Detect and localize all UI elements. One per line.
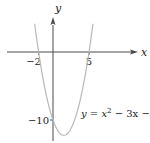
- x-axis-label: x: [141, 46, 148, 59]
- y-axis-label: y: [54, 2, 62, 15]
- parabola-graph: x y −25 −10 y = x2 − 3x − 10: [0, 0, 149, 143]
- x-tick-label: −2: [26, 56, 41, 67]
- y-axis-arrowhead: [51, 17, 56, 25]
- equation-rhs: − 3x − 10: [112, 108, 150, 119]
- equation-label: y = x2 − 3x − 10: [80, 107, 149, 119]
- equation-lhs: y = x: [80, 108, 107, 119]
- y-tick-label: −10: [28, 115, 49, 126]
- x-ticks: −25: [26, 52, 92, 67]
- y-ticks: −10: [28, 115, 53, 126]
